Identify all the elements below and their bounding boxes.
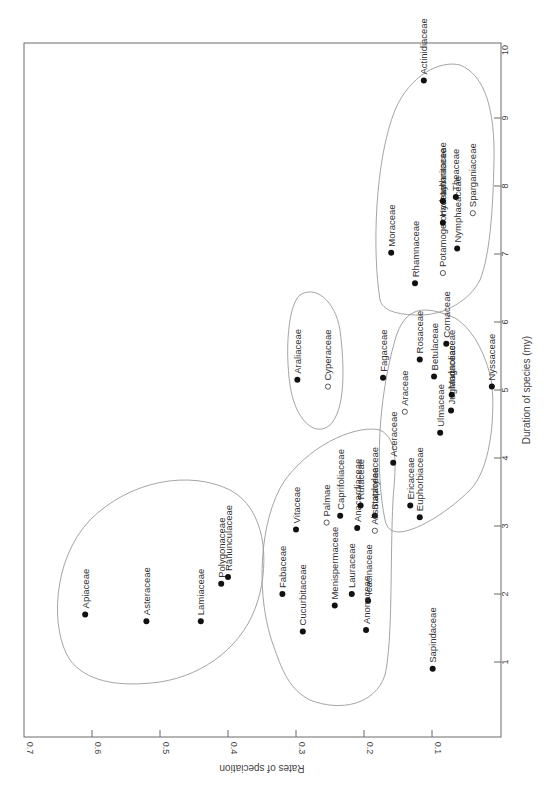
filled-circle-marker [448, 407, 454, 413]
data-point: Apiaceae [80, 569, 91, 618]
filled-circle-marker [430, 666, 436, 672]
rate-axis-ticks: 0.10.20.30.40.50.60.7 [25, 730, 443, 754]
filled-circle-marker [431, 373, 437, 379]
data-point: Sapindaceae [427, 607, 438, 671]
rate-tick-label: 0.4 [229, 742, 239, 755]
filled-circle-marker [225, 574, 231, 580]
data-point: Fabaceae [277, 546, 288, 597]
data-point: Asteraceae [141, 567, 152, 624]
point-label: Actinidiaceae [418, 18, 429, 75]
duration-tick-label: 6 [500, 319, 510, 324]
point-label: Cucurbitaceae [297, 564, 308, 625]
filled-circle-marker [454, 246, 460, 252]
data-point: Betulaceae [429, 323, 440, 380]
filled-circle-marker [440, 220, 446, 226]
point-label: Apiaceae [80, 569, 91, 609]
filled-circle-marker [421, 78, 427, 84]
point-label: Palmae [321, 484, 332, 516]
filled-circle-marker [294, 377, 300, 383]
point-label: Caprifoliaceae [335, 449, 346, 510]
filled-circle-marker [388, 250, 394, 256]
filled-circle-marker [443, 341, 449, 347]
point-label: Sapindaceae [427, 607, 438, 662]
filled-circle-marker [218, 581, 224, 587]
rate-tick-label: 0.1 [433, 742, 443, 755]
open-circle-marker [325, 384, 330, 389]
filled-circle-marker [279, 591, 285, 597]
data-point: Moraceae [386, 204, 397, 255]
point-label: Moraceae [386, 204, 397, 246]
point-label: Fagaceae [378, 329, 389, 371]
filled-circle-marker [82, 611, 88, 617]
rate-tick-label: 0.5 [161, 742, 171, 755]
filled-circle-marker [489, 384, 495, 390]
rate-tick-label: 0.2 [365, 742, 375, 755]
data-point: Vitaceae [291, 487, 302, 533]
point-label: Rosaceae [414, 311, 425, 354]
filled-circle-marker [453, 194, 459, 200]
filled-circle-marker [417, 514, 423, 520]
open-circle-marker [402, 409, 407, 414]
data-point: Araceae [399, 370, 410, 414]
data-point: Cyperaceae [322, 329, 333, 389]
data-point: Actinidiaceae [418, 18, 429, 84]
filled-circle-marker [437, 430, 443, 436]
point-label: Fabaceae [277, 546, 288, 588]
data-point: Euphorbiaceae [414, 447, 425, 520]
point-label: Ulmaceae [435, 384, 446, 427]
filled-circle-marker [363, 627, 369, 633]
duration-axis-label: Duration of species (my) [521, 336, 532, 444]
filled-circle-marker [198, 618, 204, 624]
filled-circle-marker [440, 198, 446, 204]
data-point: Lythraceae [437, 148, 448, 204]
open-circle-marker [470, 211, 475, 216]
filled-circle-marker [337, 513, 343, 519]
data-point: Lamiaceae [195, 569, 206, 624]
point-label: Anonaceae [361, 576, 372, 624]
data-point: Alismataceae [369, 468, 380, 534]
point-label: Vitaceae [291, 487, 302, 524]
data-point: Nyssaceae [486, 334, 497, 390]
data-point: Ulmaceae [435, 384, 446, 436]
filled-circle-marker [143, 618, 149, 624]
point-label: Lamiaceae [195, 569, 206, 615]
point-label: Lythraceae [437, 148, 448, 195]
filled-circle-marker [449, 392, 455, 398]
filled-circle-marker [293, 526, 299, 532]
data-point: Aceraceae [388, 411, 399, 465]
filled-circle-marker [332, 603, 338, 609]
duration-tick-label: 8 [500, 183, 510, 188]
data-point: Rosaceae [414, 311, 425, 363]
point-label: Euphorbiaceae [414, 447, 425, 511]
point-label: Rutaceae [355, 459, 366, 500]
point-label: Betulaceae [429, 323, 440, 371]
duration-tick-label: 7 [500, 251, 510, 256]
duration-tick-label: 9 [500, 115, 510, 120]
data-point: Cornaceae [441, 291, 452, 346]
filled-circle-marker [354, 525, 360, 531]
duration-tick-label: 4 [500, 455, 510, 460]
point-label: Rhamnaceae [410, 221, 421, 278]
point-label: Ranunculaceae [223, 505, 234, 571]
filled-circle-marker [390, 460, 396, 466]
point-label: Theaceae [450, 149, 461, 191]
rate-tick-label: 0.7 [25, 742, 35, 755]
open-circle-marker [372, 528, 377, 533]
filled-circle-marker [300, 628, 306, 634]
data-point: Sparganiaceae [467, 143, 478, 216]
point-label: Nyssaceae [486, 334, 497, 381]
data-point: Ranunculaceae [223, 505, 234, 580]
point-label: Cornaceae [441, 291, 452, 337]
duration-tick-label: 10 [500, 45, 510, 55]
data-point: Magnoliaceae [446, 330, 457, 398]
duration-tick-label: 1 [500, 659, 510, 664]
data-point: Rhamnaceae [410, 221, 421, 287]
point-label: Lauraceae [346, 543, 357, 588]
duration-tick-label: 5 [500, 387, 510, 392]
scatter-chart: 0.10.20.30.40.50.60.7 12345678910 Rates … [0, 0, 546, 790]
data-points: ApiaceaeAsteraceaeLamiaceaePolygonaceaeR… [80, 18, 498, 672]
filled-circle-marker [417, 356, 423, 362]
filled-circle-marker [358, 503, 364, 509]
data-point: Cucurbitaceae [297, 564, 308, 634]
data-point: Anonaceae [361, 576, 372, 633]
